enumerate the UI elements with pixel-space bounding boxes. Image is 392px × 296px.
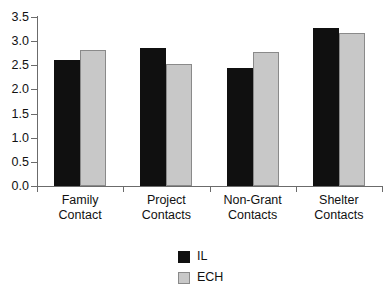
bar-il-4 bbox=[313, 28, 339, 186]
y-axis-tick-label: 2.0 bbox=[0, 83, 29, 95]
x-axis-tick bbox=[37, 187, 38, 192]
x-axis-tick bbox=[123, 187, 124, 192]
bar-chart: 0.00.51.01.52.02.53.03.5 FamilyContactPr… bbox=[0, 0, 392, 296]
gray-swatch bbox=[178, 272, 190, 284]
bar-ech-4 bbox=[339, 33, 365, 186]
category-label-line1: Shelter bbox=[284, 193, 392, 208]
bar-il-1 bbox=[54, 60, 80, 186]
legend-label: ECH bbox=[197, 271, 223, 284]
x-axis-tick bbox=[296, 187, 297, 192]
y-axis-tick-label: 0.5 bbox=[0, 156, 29, 168]
black-swatch bbox=[178, 251, 190, 263]
bar-ech-3 bbox=[253, 52, 279, 186]
bar-ech-2 bbox=[166, 64, 192, 186]
bar-il-3 bbox=[227, 68, 253, 186]
category-label-line2: Contacts bbox=[284, 208, 392, 223]
y-axis-tick-label: 2.5 bbox=[0, 59, 29, 71]
y-axis-tick-label: 3.0 bbox=[0, 35, 29, 47]
y-axis-tick-label: 3.5 bbox=[0, 11, 29, 23]
bar-ech-1 bbox=[80, 50, 106, 186]
legend-item-ech: ECH bbox=[178, 269, 223, 286]
bar-il-2 bbox=[140, 48, 166, 186]
category-label-4: ShelterContacts bbox=[284, 193, 392, 222]
legend-label: IL bbox=[197, 250, 207, 263]
y-axis-tick-label: 1.5 bbox=[0, 108, 29, 120]
legend-item-il: IL bbox=[178, 248, 223, 265]
y-axis-tick-label: 1.0 bbox=[0, 132, 29, 144]
plot-area bbox=[37, 17, 382, 186]
x-axis-tick bbox=[382, 187, 383, 192]
x-axis-tick bbox=[210, 187, 211, 192]
chart-legend: ILECH bbox=[178, 248, 223, 290]
y-axis-tick-label: 0.0 bbox=[0, 180, 29, 192]
